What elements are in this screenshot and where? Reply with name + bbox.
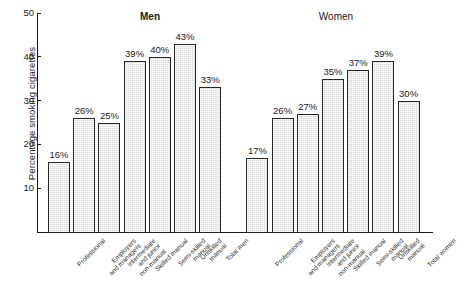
bar-value-label: 33% — [201, 74, 220, 85]
bar — [297, 114, 319, 233]
y-axis-line — [37, 13, 38, 233]
bar-value-label: 25% — [100, 110, 119, 121]
y-axis-tick-10 — [37, 188, 41, 189]
bar — [246, 158, 268, 233]
bar-value-label: 37% — [349, 57, 368, 68]
bar-value-label: 39% — [374, 48, 393, 59]
bar — [199, 87, 221, 233]
y-axis-tick-40 — [37, 56, 41, 57]
bar — [149, 57, 171, 233]
bar-value-label: 17% — [248, 145, 267, 156]
bar — [272, 118, 294, 233]
bar-value-label: 35% — [323, 66, 342, 77]
bar-value-label: 26% — [273, 105, 292, 116]
y-axis-tick-20 — [37, 144, 41, 145]
x-axis-category-label: Professional — [76, 237, 107, 268]
y-axis-tick-label-20: 20 — [10, 138, 34, 149]
bar — [174, 44, 196, 233]
bar — [98, 123, 120, 234]
bar-value-label: 40% — [150, 44, 169, 55]
bar — [372, 61, 394, 233]
bar — [48, 162, 70, 233]
bar — [398, 101, 420, 233]
bar-value-label: 16% — [49, 149, 68, 160]
y-axis-tick-label-40: 40 — [10, 51, 34, 62]
bar-value-label: 30% — [399, 88, 418, 99]
bar — [322, 79, 344, 233]
bar — [124, 61, 146, 233]
y-axis-tick-label-50: 50 — [10, 7, 34, 18]
x-axis-category-label: Professional — [274, 237, 305, 268]
x-axis-category-label: Total men — [225, 237, 250, 262]
y-axis-tick-label-30: 30 — [10, 95, 34, 106]
y-axis-tick-50 — [37, 13, 41, 14]
bar — [347, 70, 369, 233]
x-axis-category-label: Total women — [425, 237, 456, 268]
bar — [73, 118, 95, 233]
y-axis-tick-label-10: 10 — [10, 182, 34, 193]
bar-value-label: 27% — [298, 101, 317, 112]
bar-value-label: 39% — [125, 48, 144, 59]
bar-value-label: 26% — [75, 105, 94, 116]
group-title-men: Men — [140, 11, 160, 22]
group-title-women: Women — [319, 11, 353, 22]
y-axis-tick-30 — [37, 100, 41, 101]
bar-value-label: 43% — [175, 31, 194, 42]
